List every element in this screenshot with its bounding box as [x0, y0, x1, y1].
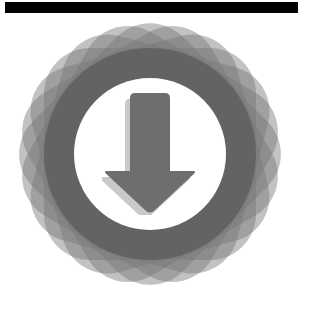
header-bar	[5, 2, 298, 13]
download-arrow[interactable]	[102, 93, 198, 215]
screenshot-canvas	[0, 0, 309, 320]
rosette-badge-icon[interactable]	[14, 18, 286, 290]
